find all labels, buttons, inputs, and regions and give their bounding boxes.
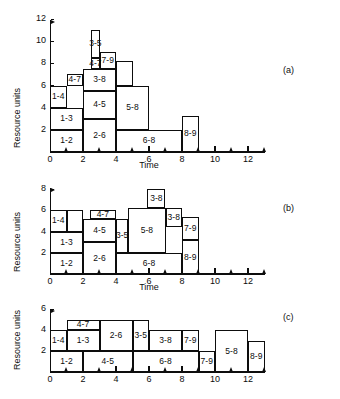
resource-block[interactable]: 8-9 (182, 116, 199, 152)
resource-block-label: 2-6 (110, 331, 122, 340)
y-axis-tick-label: 4 (32, 325, 46, 334)
resource-block[interactable]: 5-8 (116, 86, 149, 130)
resource-block[interactable]: 4-5 (83, 351, 133, 372)
y-axis-tick-label: 4 (32, 227, 46, 236)
panel-caption-b: (b) (283, 204, 294, 213)
x-axis-tick-label: 10 (208, 155, 222, 164)
resource-block[interactable]: 1-4 (50, 86, 67, 108)
resource-block-label: 1-3 (60, 114, 72, 123)
resource-block[interactable]: 8-9 (182, 240, 199, 274)
resource-block-label: 1-2 (60, 136, 72, 145)
resource-block-label: 3-8 (159, 336, 171, 345)
resource-block-label: 5-8 (126, 103, 138, 112)
resource-block[interactable] (67, 210, 84, 231)
x-axis-tick-label: 12 (241, 375, 255, 384)
resource-block[interactable]: 4-7 (67, 320, 100, 331)
resource-block[interactable]: 5-8 (215, 330, 248, 372)
resource-block-label: 4-5 (102, 357, 114, 366)
resource-block[interactable]: 4-7 (67, 74, 84, 85)
resource-block-label: 1-4 (52, 216, 64, 225)
resource-block[interactable]: 4-5 (83, 91, 116, 119)
x-axis-minor-tick-icon (262, 269, 266, 274)
resource-block[interactable]: 2-6 (83, 242, 116, 274)
resource-block[interactable]: 1-2 (50, 351, 83, 372)
x-axis-title-a: Time (129, 161, 169, 170)
panel-caption-c: (c) (283, 313, 294, 322)
resource-block-label: 3-8 (93, 75, 105, 84)
resource-block[interactable]: 5-8 (128, 208, 165, 253)
resource-block[interactable]: 4-5 (83, 219, 116, 242)
resource-block[interactable]: 7-9 (100, 52, 117, 69)
x-axis-tick-label: 4 (109, 375, 123, 384)
resource-block[interactable]: 6-8 (133, 351, 199, 372)
resource-block[interactable]: 6-8 (116, 253, 182, 274)
y-axis-tick-label: 6 (32, 304, 46, 313)
resource-block[interactable]: 7-9 (182, 217, 199, 240)
resource-block-label: 5-8 (141, 226, 153, 235)
resource-block[interactable]: 7-9 (182, 330, 199, 351)
resource-block[interactable]: 3-8 (166, 208, 183, 227)
y-axis-arrow-icon (51, 309, 55, 313)
resource-block-label: 3-5 (116, 231, 128, 240)
x-axis-tick-label: 0 (43, 277, 57, 286)
resource-block[interactable]: 1-4 (50, 210, 67, 231)
resource-block[interactable]: 3-8 (149, 330, 182, 351)
x-axis-major-tick (247, 268, 248, 274)
resource-block-label: 3-8 (150, 194, 162, 203)
resource-block[interactable]: 2-6 (83, 119, 116, 152)
resource-block[interactable]: 3-8 (147, 189, 165, 208)
resource-block[interactable] (116, 61, 133, 85)
y-axis-tick-label: 4 (32, 103, 46, 112)
resource-block-label: 7-9 (184, 224, 196, 233)
plot-area-a: 246810120246810121-21-31-44-72-64-53-84-… (0, 0, 340, 175)
resource-block-label: 4-7 (97, 210, 109, 219)
resource-block[interactable]: 4-7 (91, 58, 99, 69)
chart-panel-c: 2460246810121-21-41-34-74-52-63-56-83-87… (0, 290, 340, 399)
plot-area-b: 24680246810121-21-31-42-64-54-73-56-85-8… (0, 175, 340, 290)
x-axis-tick-label: 2 (76, 375, 90, 384)
y-axis-title-c: Resource units (12, 310, 22, 370)
resource-block-label: 4-7 (77, 320, 89, 329)
resource-block[interactable]: 1-3 (50, 232, 83, 253)
y-axis-tick-label: 2 (32, 248, 46, 257)
y-axis-tick-label: 8 (32, 58, 46, 67)
x-axis-major-tick (247, 146, 248, 152)
resource-block[interactable]: 3-5 (133, 320, 150, 352)
resource-block-label: 8-9 (184, 129, 196, 138)
resource-block[interactable]: 3-8 (83, 69, 116, 91)
x-axis-tick-label: 10 (208, 277, 222, 286)
resource-block-label: 5-8 (225, 347, 237, 356)
x-axis-tick-label: 0 (43, 155, 57, 164)
resource-block[interactable]: 3-5 (116, 219, 128, 253)
resource-block-label: 1-3 (77, 336, 89, 345)
resource-block[interactable]: 1-2 (50, 253, 83, 274)
resource-block[interactable]: 6-8 (116, 130, 182, 152)
x-axis-tick-label: 4 (109, 277, 123, 286)
x-axis-tick-label: 10 (208, 375, 222, 384)
x-axis-tick-label: 8 (175, 277, 189, 286)
resource-block[interactable]: 1-4 (50, 330, 67, 351)
resource-block-label: 8-9 (250, 352, 262, 361)
y-axis-tick-label: 6 (32, 205, 46, 214)
x-axis-tick-label: 2 (76, 155, 90, 164)
resource-block[interactable]: 1-3 (67, 330, 100, 351)
resource-block[interactable]: 3-5 (91, 30, 99, 58)
resource-block-label: 1-3 (60, 238, 72, 247)
resource-block-label: 4-5 (93, 226, 105, 235)
y-axis-tick (51, 63, 54, 64)
resource-block[interactable]: 8-9 (248, 341, 265, 373)
resource-block[interactable]: 7-9 (199, 351, 216, 372)
resource-block[interactable]: 2-6 (100, 320, 133, 352)
resource-block-label: 2-6 (93, 131, 105, 140)
resource-block-label: 1-4 (52, 336, 64, 345)
panel-caption-a: (a) (283, 66, 294, 75)
resource-block-label: 7-9 (184, 336, 196, 345)
resource-block[interactable]: 4-7 (90, 210, 116, 218)
resource-block-label: 4-7 (69, 75, 81, 84)
resource-block[interactable]: 1-3 (50, 108, 83, 130)
x-axis-tick-label: 2 (76, 277, 90, 286)
resource-block-label: 6-8 (143, 136, 155, 145)
resource-block[interactable]: 1-2 (50, 130, 83, 152)
x-axis-tick-label: 0 (43, 375, 57, 384)
plot-area-c: 2460246810121-21-41-34-74-52-63-56-83-87… (0, 290, 340, 399)
